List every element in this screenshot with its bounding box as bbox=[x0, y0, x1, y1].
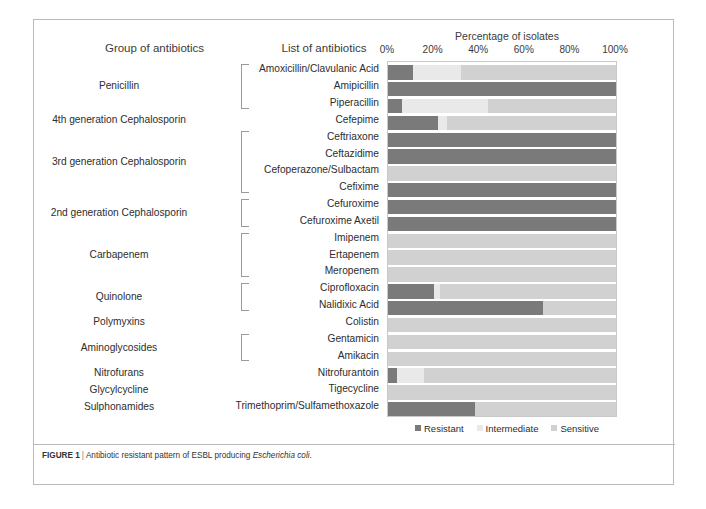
figure-caption: FIGURE 1|Antibiotic resistant pattern of… bbox=[42, 451, 662, 461]
bar-row bbox=[388, 129, 616, 146]
group-label: Nitrofurans bbox=[44, 368, 194, 378]
stacked-bar-plot bbox=[387, 61, 617, 417]
group-label: Penicillin bbox=[44, 81, 194, 91]
legend-swatch-icon bbox=[415, 425, 421, 431]
bar-segment-sensitive bbox=[388, 166, 616, 180]
stacked-bar[interactable] bbox=[388, 99, 616, 113]
bar-segment-resistant bbox=[388, 116, 438, 130]
bar-row bbox=[388, 281, 616, 298]
bar-row bbox=[388, 382, 616, 399]
stacked-bar[interactable] bbox=[388, 402, 616, 416]
bar-segment-resistant bbox=[388, 200, 616, 214]
stacked-bar[interactable] bbox=[388, 335, 616, 349]
stacked-bar[interactable] bbox=[388, 234, 616, 248]
bar-segment-sensitive bbox=[388, 234, 616, 248]
antibiotic-name: Amoxicillin/Clavulanic Acid bbox=[259, 64, 379, 74]
bar-row bbox=[388, 79, 616, 96]
antibiotic-label-row: Nitrofurantoin bbox=[194, 364, 383, 381]
stacked-bar[interactable] bbox=[388, 65, 616, 79]
stacked-bar[interactable] bbox=[388, 267, 616, 281]
stacked-bar[interactable] bbox=[388, 82, 616, 96]
bar-row bbox=[388, 163, 616, 180]
antibiotic-label-row: Amipicillin bbox=[194, 78, 383, 95]
bar-rows bbox=[388, 62, 616, 416]
antibiotic-label-row: Ertapenem bbox=[194, 246, 383, 263]
antibiotic-name: Ceftriaxone bbox=[327, 132, 379, 142]
bar-segment-resistant bbox=[388, 82, 616, 96]
stacked-bar[interactable] bbox=[388, 352, 616, 366]
bar-row bbox=[388, 315, 616, 332]
bar-row bbox=[388, 365, 616, 382]
bar-row bbox=[388, 230, 616, 247]
stacked-bar[interactable] bbox=[388, 318, 616, 332]
bar-row bbox=[388, 214, 616, 231]
bar-row bbox=[388, 298, 616, 315]
antibiotic-name: Ciprofloxacin bbox=[320, 283, 379, 293]
x-axis-tick-2: 40% bbox=[468, 44, 488, 55]
bar-row bbox=[388, 348, 616, 365]
bar-segment-sensitive bbox=[440, 284, 616, 298]
legend-swatch-icon bbox=[477, 425, 483, 431]
bar-row bbox=[388, 180, 616, 197]
caption-text-after: . bbox=[310, 451, 312, 460]
antibiotic-label-row: Ciprofloxacin bbox=[194, 280, 383, 297]
bar-segment-resistant bbox=[388, 65, 413, 79]
antibiotic-label-row: Gentamicin bbox=[194, 331, 383, 348]
group-label: 2nd generation Cephalosporin bbox=[44, 208, 194, 218]
x-axis-tick-labels: 0%20%40%60%80%100% bbox=[367, 44, 657, 58]
stacked-bar[interactable] bbox=[388, 166, 616, 180]
bar-row bbox=[388, 146, 616, 163]
bar-row bbox=[388, 62, 616, 79]
stacked-bar[interactable] bbox=[388, 149, 616, 163]
antibiotic-name: Amikacin bbox=[338, 351, 379, 361]
bar-segment-sensitive bbox=[388, 352, 616, 366]
antibiotic-name: Meropenem bbox=[325, 266, 379, 276]
antibiotic-name-column: Amoxicillin/Clavulanic AcidAmipicillinPi… bbox=[194, 61, 383, 415]
x-axis-tick-0: 0% bbox=[380, 44, 394, 55]
bar-segment-sensitive bbox=[388, 318, 616, 332]
bar-segment-sensitive bbox=[388, 250, 616, 264]
bar-segment-sensitive bbox=[543, 301, 616, 315]
caption-divider bbox=[34, 444, 675, 445]
stacked-bar[interactable] bbox=[388, 217, 616, 231]
bar-segment-intermediate bbox=[413, 65, 461, 79]
stacked-bar[interactable] bbox=[388, 183, 616, 197]
antibiotic-label-row: Ceftazidime bbox=[194, 145, 383, 162]
antibiotic-name: Cefuroxime Axetil bbox=[300, 216, 379, 226]
figure-page: Group of antibiotics List of antibiotics… bbox=[0, 0, 706, 509]
stacked-bar[interactable] bbox=[388, 301, 616, 315]
antibiotic-name: Trimethoprim/Sulfamethoxazole bbox=[236, 401, 379, 411]
stacked-bar[interactable] bbox=[388, 200, 616, 214]
antibiotic-name: Cefixime bbox=[339, 182, 379, 192]
legend-item[interactable]: Sensitive bbox=[551, 423, 599, 434]
legend-item[interactable]: Intermediate bbox=[477, 423, 539, 434]
x-axis-tick-5: 100% bbox=[602, 44, 628, 55]
bar-segment-resistant bbox=[388, 402, 475, 416]
antibiotic-name: Tigecycline bbox=[328, 384, 379, 394]
axis-title: Percentage of isolates bbox=[387, 30, 627, 42]
stacked-bar[interactable] bbox=[388, 385, 616, 399]
stacked-bar[interactable] bbox=[388, 116, 616, 130]
group-label: Polymyxins bbox=[44, 317, 194, 327]
stacked-bar[interactable] bbox=[388, 250, 616, 264]
antibiotic-name: Cefoperazone/Sulbactam bbox=[264, 165, 379, 175]
figure-container: Group of antibiotics List of antibiotics… bbox=[33, 19, 674, 485]
antibiotic-label-row: Cefuroxime Axetil bbox=[194, 213, 383, 230]
bar-row bbox=[388, 96, 616, 113]
bar-segment-sensitive bbox=[447, 116, 616, 130]
group-column-header: Group of antibiotics bbox=[52, 42, 257, 54]
antibiotic-label-row: Tigecycline bbox=[194, 381, 383, 398]
bar-segment-resistant bbox=[388, 133, 616, 147]
bar-row bbox=[388, 332, 616, 349]
group-label: Glycylcycline bbox=[44, 385, 194, 395]
antibiotic-label-row: Cefepime bbox=[194, 112, 383, 129]
antibiotic-name: Cefepime bbox=[335, 115, 379, 125]
legend-item[interactable]: Resistant bbox=[415, 423, 464, 434]
antibiotic-label-row: Cefixime bbox=[194, 179, 383, 196]
stacked-bar[interactable] bbox=[388, 284, 616, 298]
stacked-bar[interactable] bbox=[388, 133, 616, 147]
bar-segment-resistant bbox=[388, 284, 434, 298]
legend-label: Resistant bbox=[424, 423, 464, 434]
stacked-bar[interactable] bbox=[388, 368, 616, 382]
group-label-column: Penicillin4th generation Cephalosporin3r… bbox=[44, 61, 194, 415]
